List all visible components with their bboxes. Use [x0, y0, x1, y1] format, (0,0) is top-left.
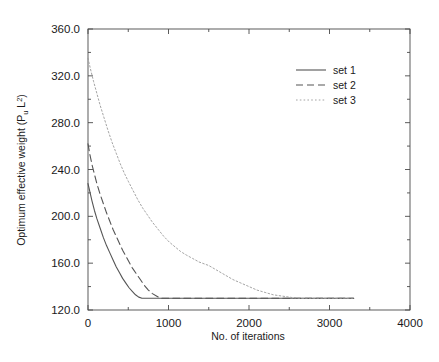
- y-tick-label: 320.0: [51, 70, 80, 82]
- y-tick-label: 280.0: [51, 117, 80, 129]
- y-tick-label: 200.0: [51, 210, 80, 222]
- x-tick-label: 1000: [156, 317, 182, 329]
- x-tick-label: 0: [85, 317, 91, 329]
- x-tick-label: 4000: [397, 317, 423, 329]
- y-tick-label: 160.0: [51, 257, 80, 269]
- line-chart: 01000200030004000 120.0160.0200.0240.028…: [0, 0, 439, 362]
- y-tick-label: 240.0: [51, 164, 80, 176]
- legend-label-set-3: set 3: [333, 94, 356, 106]
- y-tick-label: 120.0: [51, 304, 80, 316]
- y-tick-label: 360.0: [51, 23, 80, 35]
- chart-figure: 01000200030004000 120.0160.0200.0240.028…: [0, 0, 439, 362]
- x-tick-label: 3000: [317, 317, 343, 329]
- x-tick-label: 2000: [236, 317, 262, 329]
- x-axis-title: No. of iterations: [211, 330, 285, 342]
- legend-label-set-2: set 2: [333, 79, 356, 91]
- legend-label-set-1: set 1: [333, 64, 356, 76]
